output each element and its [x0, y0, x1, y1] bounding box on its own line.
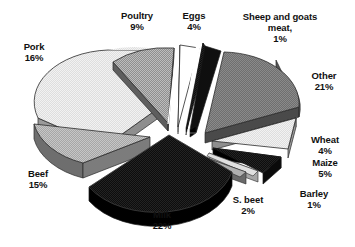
pie-label-beef-value: 15%: [12, 179, 64, 190]
pie-label-s-beet-value: 2%: [219, 205, 277, 216]
pie-label-pork-value: 16%: [8, 52, 60, 63]
pie-label-barley-value: 1%: [285, 199, 343, 210]
pie-label-eggs-name: Eggs: [183, 10, 206, 21]
pie-label-poultry-name: Poultry: [121, 10, 153, 21]
pie-label-barley-name: Barley: [300, 188, 328, 199]
pie-label-wheat-value: 4%: [297, 145, 353, 156]
pie-label-milk-value: 22%: [134, 220, 190, 231]
pie-label-wheat-name: Wheat: [311, 134, 339, 145]
pie-label-eggs: Eggs 4%: [167, 10, 221, 32]
pie-label-other-name: Other: [312, 70, 337, 81]
pie-label-eggs-value: 4%: [167, 21, 221, 32]
pie-label-sheep-goats-meat: Sheep and goats meat, 1%: [238, 11, 322, 44]
pie-label-barley: Barley 1%: [285, 188, 343, 210]
pie-label-s-beet: S. beet 2%: [219, 194, 277, 216]
pie-label-sheep-goats-meat-name: Sheep and goats meat,: [243, 11, 318, 33]
pie-label-s-beet-name: S. beet: [233, 194, 263, 205]
pie-label-other: Other 21%: [296, 70, 352, 92]
pie-label-other-value: 21%: [296, 81, 352, 92]
pie-label-maize-name: Maize: [312, 157, 337, 168]
pie-label-maize: Maize 5%: [297, 157, 353, 179]
pie-label-milk: Milk 22%: [134, 209, 190, 231]
pie-label-beef: Beef 15%: [12, 168, 64, 190]
pie-label-poultry-value: 9%: [97, 21, 177, 32]
pie-label-maize-value: 5%: [297, 168, 353, 179]
pie-label-wheat: Wheat 4%: [297, 134, 353, 156]
pie-chart: Poultry 9% Eggs 4% Sheep and goats meat,…: [0, 0, 355, 247]
pie-label-pork: Pork 16%: [8, 41, 60, 63]
pie-label-sheep-goats-meat-value: 1%: [238, 33, 322, 44]
pie-label-pork-name: Pork: [24, 41, 45, 52]
pie-label-poultry: Poultry 9%: [97, 10, 177, 32]
pie-label-milk-name: Milk: [153, 209, 171, 220]
pie-label-beef-name: Beef: [28, 168, 48, 179]
